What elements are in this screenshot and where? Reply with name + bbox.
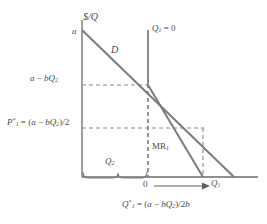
q1-zero-label: Q1 = 0 [152,24,176,34]
y-axis-label: $/Q [83,12,98,22]
q2-brace-label: Q2 [105,157,114,167]
economics-diagram: $/Q a D Q1 = 0 a − bQ2 P*1 = (a − bQ2)/2… [0,0,267,224]
quantity-star-label: Q*1 = (a − bQ2)/2b [122,199,190,210]
price-star-label: P*1 = (a − bQ2)/2 [7,117,69,128]
intercept-a-label: a [72,27,77,36]
marginal-revenue-label: MR1 [152,142,169,152]
x-axis-label: Q1 [211,179,220,189]
intercept-value-label: a − bQ2 [30,74,58,84]
diagram-canvas [0,0,267,224]
marginal-revenue-curve [148,85,203,177]
demand-curve-label: D [111,45,118,55]
q1-direction-arrowhead [202,183,210,190]
origin-label: 0 [143,180,148,189]
